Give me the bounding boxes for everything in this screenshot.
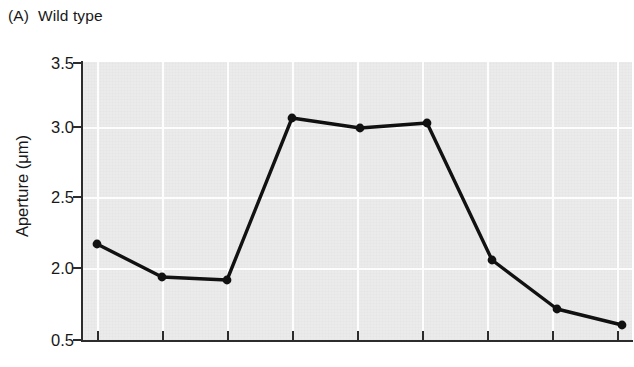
y-tick-label: 0.5 [30,332,74,349]
gridline-horizontal [82,197,632,199]
gridline-horizontal [82,268,632,270]
gridline-vertical [227,62,229,340]
y-axis-tick [73,126,82,128]
y-tick-label: 3.0 [30,119,74,136]
plot-area [82,62,632,340]
y-tick-label-group: 3.53.02.52.00.5 [26,0,74,367]
gridline-horizontal [82,127,632,129]
y-axis-tick [73,196,82,198]
gridline-vertical [552,62,554,340]
gridline-vertical [292,62,294,340]
gridline-vertical [617,62,619,340]
x-axis-tick [97,331,99,341]
gridline-vertical [97,62,99,340]
y-axis-tick [73,62,82,64]
y-axis-tick [73,339,82,341]
y-tick-label: 2.5 [30,189,74,206]
y-tick-label: 3.5 [30,55,74,72]
gridline-vertical [487,62,489,340]
gridline-vertical [162,62,164,340]
x-axis-tick [357,331,359,341]
x-axis-tick [617,331,619,341]
x-axis-tick [487,331,489,341]
x-axis-tick [552,331,554,341]
x-axis-tick [227,331,229,341]
x-axis-tick [422,331,424,341]
x-axis-tick [292,331,294,341]
y-axis-line [81,61,83,342]
gridline-vertical [422,62,424,340]
y-axis-tick [73,267,82,269]
figure-panel: (A)Wild type Aperture (μm) 3.53.02.52.00… [0,0,634,367]
x-axis-tick [162,331,164,341]
y-tick-label: 2.0 [30,260,74,277]
gridline-vertical [357,62,359,340]
